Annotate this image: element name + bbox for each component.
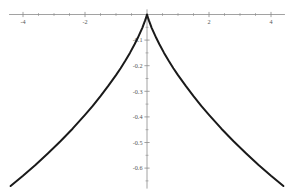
y-tick-label: -0.3 bbox=[133, 88, 143, 95]
x-tick-label: -4 bbox=[20, 18, 25, 25]
y-tick-label: -0.6 bbox=[133, 164, 143, 171]
x-tick-label: -2 bbox=[82, 18, 87, 25]
y-tick-label: -0.4 bbox=[133, 113, 143, 120]
plot-canvas: -4-224 -0.1-0.2-0.3-0.4-0.5-0.6 bbox=[0, 0, 287, 190]
y-axis-tick-labels: -0.1-0.2-0.3-0.4-0.5-0.6 bbox=[133, 36, 143, 171]
x-tick-label: 4 bbox=[269, 18, 272, 25]
x-tick-label: 2 bbox=[207, 18, 210, 25]
function-plot: -4-224 -0.1-0.2-0.3-0.4-0.5-0.6 bbox=[0, 0, 287, 190]
y-tick-label: -0.5 bbox=[133, 139, 143, 146]
y-tick-label: -0.2 bbox=[133, 62, 143, 69]
